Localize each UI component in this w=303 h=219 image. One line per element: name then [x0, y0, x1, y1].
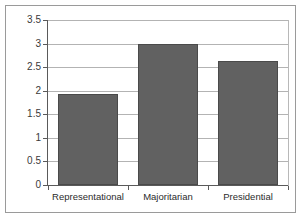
x-tick-end-3: [288, 186, 289, 190]
y-axis-label-slot: 0.5: [0, 156, 41, 166]
y-axis-label-3: 3: [1, 39, 41, 49]
y-axis-label-slot: 0: [0, 180, 41, 190]
y-axis-label-slot: 3.5: [0, 15, 41, 25]
bar-chart-figure: 00.511.522.533.5 RepresentationalMajorit…: [0, 0, 303, 219]
y-axis-label-0: 0: [1, 180, 41, 190]
y-tick-3.5: [43, 20, 48, 21]
y-axis-label-slot: 1: [0, 133, 41, 143]
plot-right-edge: [288, 20, 289, 186]
y-axis-label-0.5: 0.5: [1, 156, 41, 166]
x-tick-end-0: [48, 186, 49, 190]
y-tick-1: [43, 138, 48, 139]
x-axis-label-presidential: Presidential: [208, 191, 288, 202]
y-axis-label-slot: 1.5: [0, 109, 41, 119]
y-tick-2: [43, 91, 48, 92]
y-axis-label-slot: 3: [0, 39, 41, 49]
y-axis-label-1: 1: [1, 133, 41, 143]
plot-area: [48, 20, 288, 185]
y-tick-3: [43, 44, 48, 45]
y-tick-2.5: [43, 67, 48, 68]
y-axis-label-slot: 2.5: [0, 62, 41, 72]
x-tick-boundary-1: [128, 186, 129, 190]
gridline-3.5: [48, 20, 288, 21]
bar-majoritarian: [138, 44, 198, 185]
y-axis-label-3.5: 3.5: [1, 15, 41, 25]
y-tick-1.5: [43, 114, 48, 115]
x-axis-label-representational: Representational: [48, 191, 128, 202]
y-axis-label-1.5: 1.5: [1, 109, 41, 119]
x-tick-boundary-2: [208, 186, 209, 190]
x-axis-label-majoritarian: Majoritarian: [128, 191, 208, 202]
y-axis-label-slot: 2: [0, 86, 41, 96]
bar-representational: [58, 94, 118, 185]
bar-presidential: [218, 61, 278, 185]
y-axis-label-2.5: 2.5: [1, 62, 41, 72]
y-tick-0.5: [43, 161, 48, 162]
y-axis-label-2: 2: [1, 86, 41, 96]
x-axis-line: [47, 185, 288, 186]
